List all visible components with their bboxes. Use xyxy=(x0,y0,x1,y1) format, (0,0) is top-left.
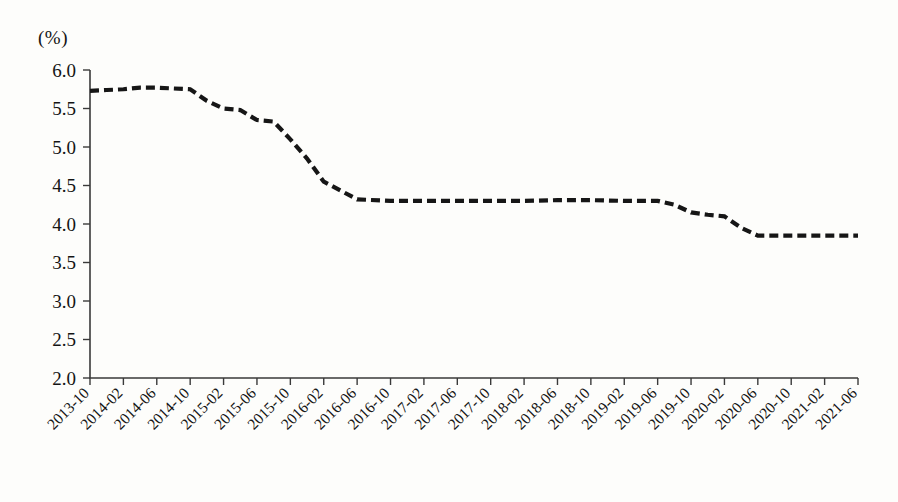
axis-lines xyxy=(90,70,858,378)
y-axis-tick-label: 3.5 xyxy=(52,252,76,273)
y-axis-tick-label: 5.5 xyxy=(52,98,76,119)
y-axis-tick-label: 2.5 xyxy=(52,329,76,350)
x-axis-label-group: 2013-102014-022014-062014-102015-022015-… xyxy=(44,384,861,433)
y-axis-tick-label: 2.0 xyxy=(52,368,76,389)
y-axis-tick-label: 4.5 xyxy=(52,175,76,196)
y-axis-tick-label: 5.0 xyxy=(52,137,76,158)
y-axis-tick-group: 2.02.53.03.54.04.55.05.56.0 xyxy=(52,60,90,389)
data-series-line xyxy=(90,88,858,236)
y-axis-tick-label: 3.0 xyxy=(52,291,76,312)
y-axis-tick-label: 4.0 xyxy=(52,214,76,235)
line-chart-plot: 2.02.53.03.54.04.55.05.56.0 2013-102014-… xyxy=(0,0,898,502)
x-axis-tick-group xyxy=(90,378,858,385)
y-axis-tick-label: 6.0 xyxy=(52,60,76,81)
chart-container: (%) 2.02.53.03.54.04.55.05.56.0 2013-102… xyxy=(0,0,898,502)
